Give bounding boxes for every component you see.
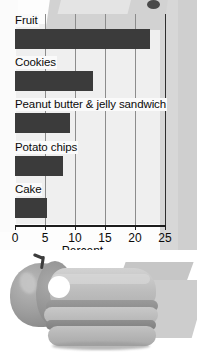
x-tick — [135, 225, 136, 230]
bar-group: Cookies — [15, 56, 165, 98]
x-tick-label: 0 — [12, 231, 19, 245]
bar — [15, 198, 47, 218]
bar — [15, 29, 150, 49]
x-axis-line — [15, 225, 166, 227]
x-tick-label: 15 — [98, 231, 111, 245]
plot-area: FruitCookiesPeanut butter & jelly sandwi… — [15, 14, 165, 225]
bar-group: Potato chips — [15, 141, 165, 183]
bar-chart: FruitCookiesPeanut butter & jelly sandwi… — [0, 0, 197, 250]
bar-category-label: Potato chips — [15, 141, 78, 154]
food-illustration — [0, 250, 197, 356]
x-tick-label: 10 — [68, 231, 81, 245]
x-tick-label: 20 — [128, 231, 141, 245]
bar — [15, 156, 63, 176]
x-tick — [75, 225, 76, 230]
bar-category-label: Peanut butter & jelly sandwich — [15, 98, 167, 111]
x-tick-label: 25 — [158, 231, 171, 245]
bar-group: Peanut butter & jelly sandwich — [15, 98, 165, 140]
bar — [15, 113, 70, 133]
bar-group: Fruit — [15, 14, 165, 56]
chart-page: FruitCookiesPeanut butter & jelly sandwi… — [0, 0, 197, 356]
bar-category-label: Cookies — [15, 56, 57, 69]
x-tick — [15, 225, 16, 230]
bar-category-label: Cake — [15, 183, 42, 196]
x-tick-label: 5 — [42, 231, 49, 245]
bar — [15, 71, 93, 91]
x-tick — [165, 225, 166, 230]
bar-group: Cake — [15, 183, 165, 225]
x-tick — [105, 225, 106, 230]
gridline-25 — [165, 14, 166, 225]
bar-category-label: Fruit — [15, 14, 39, 27]
sandwich-bite-notch — [48, 276, 70, 298]
x-tick — [45, 225, 46, 230]
sandwich-shadow — [52, 342, 150, 350]
